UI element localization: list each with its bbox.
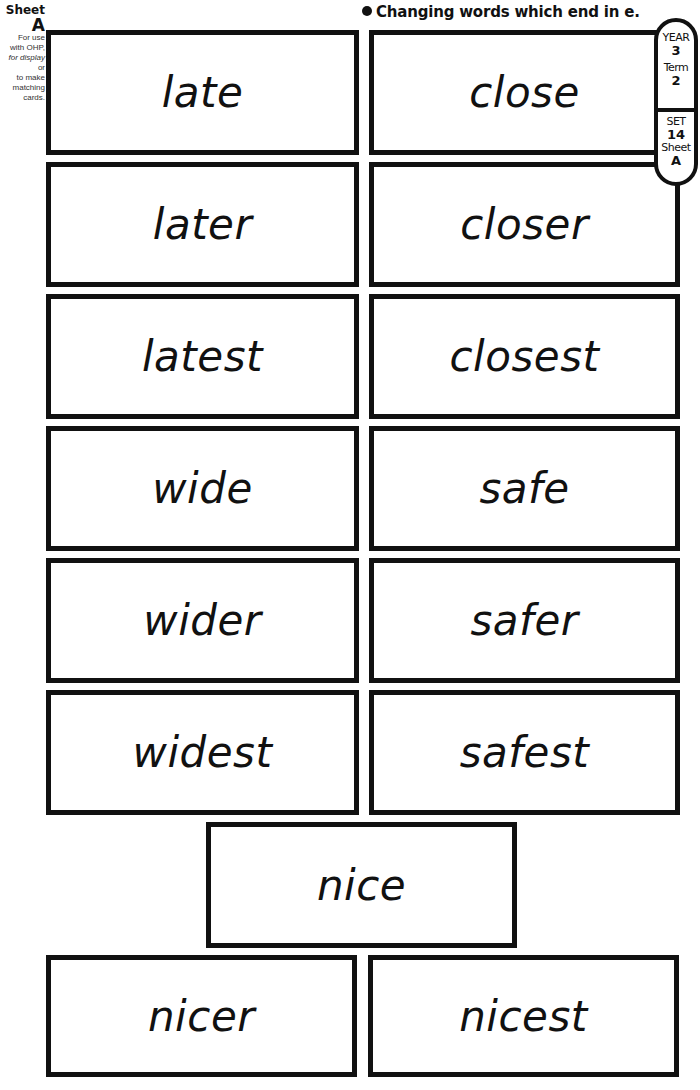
card-word: nice [317, 861, 406, 910]
usage-line: to make [0, 73, 45, 83]
footer-text [200, 1082, 520, 1090]
word-card[interactable]: wider [46, 558, 359, 683]
usage-line: or [0, 63, 45, 73]
card-word: safest [460, 728, 590, 777]
usage-line: cards. [0, 93, 45, 103]
term-value: 2 [658, 74, 694, 88]
card-word: later [153, 200, 252, 249]
word-card[interactable]: widest [46, 690, 359, 815]
set-value: 14 [658, 128, 694, 142]
card-word: nicer [148, 992, 255, 1041]
bullet-icon [362, 6, 372, 16]
word-card[interactable]: safest [369, 690, 680, 815]
usage-line: matching [0, 83, 45, 93]
usage-line: with OHP, [0, 43, 45, 53]
usage-line: for display [0, 53, 45, 63]
word-card[interactable]: nicer [46, 955, 357, 1077]
word-card[interactable]: later [46, 162, 359, 287]
page-title-text: Changing words which end in e. [376, 3, 640, 21]
card-word: late [162, 68, 244, 117]
year-value: 3 [658, 44, 694, 58]
usage-line: For use [0, 33, 45, 43]
card-word: wide [152, 464, 253, 513]
sheet-tab-value: A [658, 154, 694, 168]
word-card[interactable]: latest [46, 294, 359, 419]
word-card[interactable]: safe [369, 426, 680, 551]
word-card[interactable]: wide [46, 426, 359, 551]
card-word: widest [133, 728, 273, 777]
sheet-label: Sheet A For use with OHP, for display or… [0, 4, 45, 103]
year-term-set-tab: YEAR 3 Term 2 SET 14 Sheet A [654, 18, 698, 186]
word-card[interactable]: late [46, 30, 359, 155]
word-card[interactable]: nicest [368, 955, 679, 1077]
card-word: closest [449, 332, 599, 381]
word-card[interactable]: close [369, 30, 680, 155]
card-word: wider [143, 596, 261, 645]
word-card[interactable]: safer [369, 558, 680, 683]
year-term-segment: YEAR 3 Term 2 [658, 22, 694, 112]
word-card[interactable]: nice [206, 822, 517, 948]
card-word: close [469, 68, 580, 117]
card-word: safer [470, 596, 578, 645]
word-card[interactable]: closest [369, 294, 680, 419]
word-card[interactable]: closer [369, 162, 680, 287]
set-sheet-segment: SET 14 Sheet A [658, 112, 694, 168]
page-title: Changing words which end in e. [362, 3, 640, 21]
card-word: closer [460, 200, 588, 249]
card-word: safe [479, 464, 569, 513]
sheet-letter: A [0, 17, 45, 33]
card-word: latest [142, 332, 263, 381]
card-word: nicest [459, 992, 588, 1041]
